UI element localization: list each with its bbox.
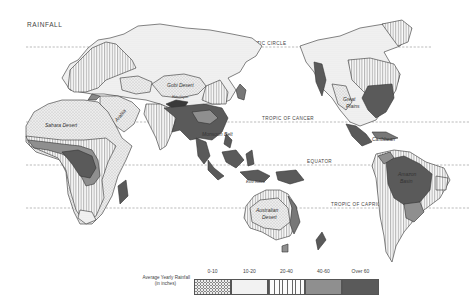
legend-swatch-10-20 xyxy=(231,279,268,295)
label-caribbean: Caribbean xyxy=(372,136,395,142)
australia xyxy=(244,190,326,252)
label-great-plains-2: Plains xyxy=(346,103,360,109)
legend-swatch-40-60 xyxy=(305,279,342,295)
label-east-indies: East Indies xyxy=(246,180,265,184)
rainfall-legend: Average Yearly Rainfall (in inches) 0-10… xyxy=(60,262,360,302)
label-great-plains: Great xyxy=(343,96,356,102)
world-rainfall-map: ARCTIC CIRCLE TROPIC OF CANCER EQUATOR T… xyxy=(0,0,470,303)
legend-swatch-over-60 xyxy=(342,279,379,295)
legend-label-20-40: 20-40 xyxy=(268,268,305,274)
label-amazon-basin-2: Basin xyxy=(400,178,413,184)
north-america xyxy=(300,20,412,146)
legend-swatch-0-10 xyxy=(194,279,231,295)
legend-label-10-20: 10-20 xyxy=(231,268,268,274)
legend-label-0-10: 0-10 xyxy=(194,268,231,274)
equator-label: EQUATOR xyxy=(307,159,332,164)
south-america xyxy=(372,150,450,262)
legend-title-line2: (in inches) xyxy=(70,281,190,287)
label-gobi-desert: Gobi Desert xyxy=(167,82,194,88)
label-himalayas: Himalayas xyxy=(172,95,189,99)
map-title: RAINFALL xyxy=(27,21,63,28)
label-australian-desert: Australian xyxy=(255,207,278,213)
legend-label-40-60: 40-60 xyxy=(305,268,342,274)
legend-label-over-60: Over 60 xyxy=(342,268,379,274)
label-sahara-desert: Sahara Desert xyxy=(45,122,78,128)
legend-title: Average Yearly Rainfall (in inches) xyxy=(70,275,190,287)
tropic-of-cancer-label: TROPIC OF CANCER xyxy=(262,116,314,121)
label-monsoon-belt: Monsoon Belt xyxy=(202,131,233,137)
label-amazon-basin: Amazon xyxy=(397,171,417,177)
legend-swatch-20-40 xyxy=(268,279,305,295)
label-australian-desert-2: Desert xyxy=(262,214,277,220)
